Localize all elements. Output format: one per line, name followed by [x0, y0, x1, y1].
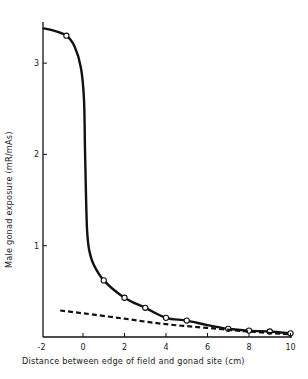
solid-series	[44, 28, 294, 336]
solid-curve	[44, 28, 291, 333]
y-tick-label: 3	[34, 59, 39, 68]
x-tick-label: 0	[80, 343, 85, 352]
plot-area	[44, 28, 294, 336]
x-tick-label: 10	[285, 343, 295, 352]
x-tick: 10	[285, 333, 295, 352]
y-tick-label: 2	[34, 150, 39, 159]
data-point-open-circle	[143, 305, 148, 310]
x-tick-label: 8	[246, 343, 251, 352]
data-point-open-circle	[163, 315, 168, 320]
x-tick-label: 6	[205, 343, 210, 352]
x-tick-label: 2	[122, 343, 127, 352]
data-point-open-circle	[122, 295, 127, 300]
x-tick: -2	[38, 343, 46, 352]
x-tick: 4	[163, 333, 168, 352]
y-tick: 1	[34, 242, 47, 251]
y-axis-label: Male gonad exposure (mR/mAs)	[4, 131, 14, 268]
x-tick: 8	[246, 333, 251, 352]
chart: -20246810 123 Distance between edge of f…	[0, 0, 308, 379]
data-point-open-circle	[101, 278, 106, 283]
y-tick-label: 1	[34, 242, 39, 251]
x-tick-label: 4	[163, 343, 168, 352]
y-tick: 2	[34, 150, 47, 159]
x-tick: 2	[122, 333, 127, 352]
data-point-open-circle	[184, 318, 189, 323]
data-point-open-circle	[64, 33, 69, 38]
x-axis-label: Distance between edge of field and gonad…	[22, 356, 245, 366]
x-tick: 0	[80, 333, 85, 352]
x-tick: 6	[205, 333, 210, 352]
y-tick: 3	[34, 59, 47, 68]
x-tick-label: -2	[38, 343, 46, 352]
x-ticks: -20246810	[38, 333, 296, 352]
y-ticks: 123	[34, 59, 47, 251]
